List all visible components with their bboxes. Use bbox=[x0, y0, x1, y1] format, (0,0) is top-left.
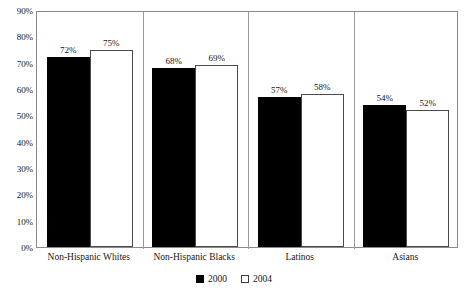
bar-2000-asians bbox=[363, 105, 406, 247]
bar-2000-latinos bbox=[258, 97, 301, 247]
bar-2004-non-hispanic-blacks bbox=[195, 65, 238, 247]
y-axis-tick-label: 90% bbox=[0, 7, 33, 16]
bar-value-label: 57% bbox=[258, 86, 301, 95]
y-axis: 90%80%70%60%50%40%30%20%10%0% bbox=[0, 11, 33, 248]
bar-value-label: 72% bbox=[47, 46, 90, 55]
x-axis-category-label: Non-Hispanic Blacks bbox=[142, 252, 248, 263]
bar-value-label: 69% bbox=[195, 54, 238, 63]
legend-label: 2004 bbox=[253, 274, 272, 284]
y-axis-tick-label: 80% bbox=[0, 33, 33, 42]
bar-chart: 90%80%70%60%50%40%30%20%10%0% 72%75%68%6… bbox=[0, 0, 468, 293]
legend-item-2004: 2004 bbox=[241, 274, 272, 284]
y-axis-tick-label: 10% bbox=[0, 217, 33, 226]
x-axis-category-label: Asians bbox=[353, 252, 459, 263]
legend-swatch-icon bbox=[241, 275, 249, 283]
bar-value-label: 75% bbox=[90, 39, 133, 48]
plot-area: 72%75%68%69%57%58%54%52% bbox=[36, 11, 458, 248]
group-separator bbox=[354, 12, 355, 249]
y-axis-tick-label: 50% bbox=[0, 112, 33, 121]
legend-item-2000: 2000 bbox=[196, 274, 227, 284]
y-axis-tick-label: 40% bbox=[0, 138, 33, 147]
bar-2000-non-hispanic-whites bbox=[47, 57, 90, 247]
group-separator bbox=[248, 12, 249, 249]
bar-value-label: 54% bbox=[363, 94, 406, 103]
y-axis-tick-label: 0% bbox=[0, 244, 33, 253]
chart-legend: 20002004 bbox=[0, 274, 468, 284]
group-separator bbox=[143, 12, 144, 249]
y-axis-tick-label: 20% bbox=[0, 191, 33, 200]
y-axis-tick-label: 70% bbox=[0, 59, 33, 68]
bar-value-label: 58% bbox=[301, 83, 344, 92]
legend-swatch-icon bbox=[196, 275, 204, 283]
x-axis-category-labels: Non-Hispanic WhitesNon-Hispanic BlacksLa… bbox=[36, 252, 458, 266]
x-axis-category-label: Latinos bbox=[247, 252, 353, 263]
bars-layer: 72%75%68%69%57%58%54%52% bbox=[37, 12, 457, 247]
x-axis-category-label: Non-Hispanic Whites bbox=[36, 252, 142, 263]
bar-value-label: 52% bbox=[406, 99, 449, 108]
bar-2004-non-hispanic-whites bbox=[90, 50, 133, 248]
legend-label: 2000 bbox=[208, 274, 227, 284]
bar-value-label: 68% bbox=[152, 57, 195, 66]
bar-2000-non-hispanic-blacks bbox=[152, 68, 195, 247]
y-axis-tick-label: 60% bbox=[0, 86, 33, 95]
bar-2004-latinos bbox=[301, 94, 344, 247]
bar-2004-asians bbox=[406, 110, 449, 247]
y-axis-tick-label: 30% bbox=[0, 165, 33, 174]
